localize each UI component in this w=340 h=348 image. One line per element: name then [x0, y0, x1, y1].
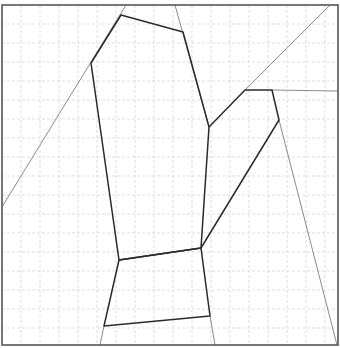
diagram-frame: [2, 5, 338, 345]
geometric-diagram: [0, 0, 340, 348]
bottom-quad: [104, 248, 210, 326]
right-horizontal: [272, 90, 338, 91]
upper-right-diagonal: [245, 5, 330, 90]
thin-construction-lines: [2, 5, 338, 345]
bottom-left-stub: [100, 326, 104, 345]
right-long-slant: [279, 120, 337, 345]
right-arm: [201, 90, 279, 248]
grid-lines: [2, 5, 338, 345]
upper-polygon: [91, 15, 209, 260]
